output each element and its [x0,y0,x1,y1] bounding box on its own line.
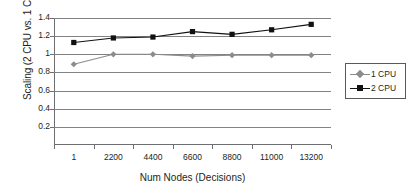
y-tick-label: 0.6 [26,86,50,95]
square-marker-icon [150,34,155,39]
y-tick-label: 0.2 [26,122,50,131]
diamond-marker-icon [308,52,314,58]
plot-area [54,18,331,145]
y-tick-mark [50,109,54,110]
legend-entry-2-cpu: 2 CPU [349,81,405,95]
x-tick-mark [54,145,55,149]
diamond-marker-icon [189,53,195,59]
y-tick-label: 0.4 [26,104,50,113]
x-tick-label: 13200 [299,152,323,162]
y-tick-label: 1 [26,49,50,58]
y-tick-mark [50,72,54,73]
y-tick-mark [50,54,54,55]
x-tick-label: 4400 [143,152,162,162]
diamond-marker-icon [110,51,116,57]
legend-entry-1-cpu: 1 CPU [349,67,405,81]
y-tick-label: 0.8 [26,67,50,76]
square-marker-icon [71,40,76,45]
x-axis-title: Num Nodes (Decisions) [54,172,331,183]
square-marker-icon [269,27,274,32]
square-marker-icon [111,35,116,40]
x-axis-tick-labels: 122004400660088001100013200 [0,152,413,166]
x-tick-label: 2200 [104,152,123,162]
scaling-line-chart: Scaling (2 CPU vs. 1 CPU) 1.41.210.80.60… [0,0,413,195]
diamond-marker-icon [71,61,77,67]
y-tick-label: 1.4 [26,13,50,22]
square-marker-icon [229,32,234,37]
x-tick-mark [212,145,213,149]
y-tick-mark [50,91,54,92]
x-tick-label: 1 [71,152,76,162]
square-marker-icon [309,22,314,27]
legend-label-1-cpu: 1 CPU [371,69,396,79]
x-tick-mark [252,145,253,149]
diamond-marker-icon [269,52,275,58]
diamond-marker-icon [229,52,235,58]
square-marker-icon [357,85,363,91]
x-tick-mark [133,145,134,149]
legend-label-2-cpu: 2 CPU [371,83,396,93]
legend-symbol-2-cpu [349,82,371,94]
diamond-marker-icon [150,51,156,57]
y-tick-label: 1.2 [26,31,50,40]
chart-legend: 1 CPU 2 CPU [345,63,406,99]
x-tick-label: 8800 [223,152,242,162]
y-tick-mark [50,127,54,128]
plot-series-layer [54,18,331,145]
x-tick-mark [94,145,95,149]
x-tick-label: 11000 [260,152,283,162]
x-tick-mark [331,145,332,149]
square-marker-icon [190,29,195,34]
legend-symbol-1-cpu [349,68,371,80]
x-tick-mark [291,145,292,149]
diamond-marker-icon [356,70,364,78]
x-tick-label: 6600 [183,152,202,162]
x-tick-mark [173,145,174,149]
y-tick-mark [50,36,54,37]
y-tick-mark [50,18,54,19]
